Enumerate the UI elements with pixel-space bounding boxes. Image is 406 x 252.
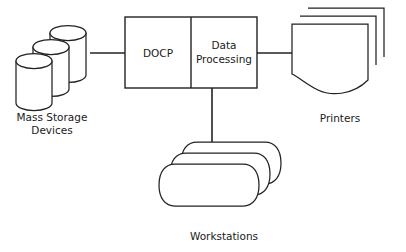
diagram-canvas: Mass Storage Devices DOCP Data Processin…	[0, 0, 406, 252]
mass-storage-devices-group: Mass Storage Devices	[16, 26, 87, 137]
mass-storage-caption-line1: Mass Storage	[17, 111, 88, 123]
printers-caption: Printers	[320, 112, 360, 124]
central-unit-box: DOCP Data Processing	[125, 17, 257, 88]
printers-group: Printers	[292, 8, 384, 124]
printer-document-1	[292, 24, 368, 94]
data-processing-label-line1: Data	[211, 39, 236, 51]
workstations-group: Workstations	[159, 142, 281, 242]
workstation-1	[159, 164, 259, 206]
workstations-caption: Workstations	[190, 230, 258, 242]
docp-label: DOCP	[143, 47, 173, 59]
mass-storage-caption-line2: Devices	[31, 124, 72, 136]
system-block-diagram: Mass Storage Devices DOCP Data Processin…	[0, 0, 406, 252]
mass-storage-cylinder-1	[16, 54, 52, 111]
data-processing-label-line2: Processing	[196, 53, 252, 65]
